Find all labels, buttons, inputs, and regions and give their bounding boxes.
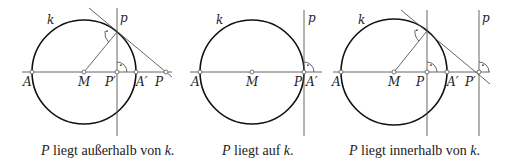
label-P: P [293, 75, 303, 89]
point-P [302, 70, 306, 74]
tangent-line [89, 8, 172, 77]
right-angle-dot: · [415, 24, 419, 38]
label-A-prime: A′ [305, 75, 318, 89]
point-M [250, 70, 254, 74]
panel-outside: · · k p A M P′ A′ P P liegt außerhalb vo… [22, 8, 174, 158]
caption-outside: P liegt außerhalb von k. [40, 143, 174, 158]
point-P [164, 70, 168, 74]
point-M [82, 70, 86, 74]
label-p: p [120, 11, 128, 25]
point-P-prime [477, 70, 481, 74]
label-k: k [216, 13, 223, 27]
point-P-prime [115, 70, 119, 74]
label-P-prime: P′ [464, 75, 476, 89]
label-P: P [154, 75, 164, 89]
label-M: M [245, 75, 259, 89]
label-P: P [415, 75, 425, 89]
label-A-prime: A′ [446, 75, 459, 89]
right-angle-dot: · [306, 59, 310, 73]
right-angle-dot: · [429, 59, 433, 73]
point-A-prime [134, 70, 138, 74]
label-p: p [308, 11, 316, 25]
label-M: M [77, 75, 91, 89]
label-p: p [482, 11, 490, 25]
caption-on: P liegt auf k. [221, 143, 294, 158]
panel-on: · k p A M P A′ P liegt auf k. [190, 10, 322, 158]
label-P-prime: P′ [104, 75, 116, 89]
point-A-prime [445, 70, 449, 74]
label-A: A [22, 75, 32, 89]
label-k: k [358, 13, 365, 27]
point-A [30, 70, 34, 74]
right-angle-dot: · [105, 25, 109, 39]
label-A: A [190, 75, 200, 89]
radius-line [394, 31, 427, 72]
panel-inside: · · · k p A M P A′ P′ P liegt innerhalb … [331, 10, 490, 158]
radius-line [84, 32, 117, 72]
right-angle-dot: · [119, 59, 123, 73]
point-M [392, 70, 396, 74]
label-A-prime: A′ [135, 75, 148, 89]
point-A [198, 70, 202, 74]
polar-diagram: · · k p A M P′ A′ P P liegt außerhalb vo… [0, 0, 509, 162]
label-M: M [387, 75, 401, 89]
label-A: A [331, 75, 341, 89]
right-angle-dot: · [481, 59, 485, 73]
caption-inside: P liegt innerhalb von k. [348, 143, 480, 158]
point-P [425, 70, 429, 74]
label-k: k [47, 13, 54, 27]
point-A [339, 70, 343, 74]
